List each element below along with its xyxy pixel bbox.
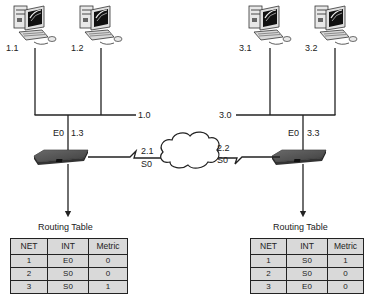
table-header-row: NET INT Metric xyxy=(11,239,128,255)
column-header-int: INT xyxy=(48,239,89,255)
left-lan-segment xyxy=(35,48,137,152)
cell-int: S0 xyxy=(287,268,328,281)
table-row: 1 S0 1 xyxy=(251,255,364,268)
cell-net: 2 xyxy=(11,268,48,281)
pc-icon-3-1 xyxy=(249,6,291,44)
right-router-eth-interface: E0 xyxy=(288,128,299,138)
cell-metric: 0 xyxy=(89,255,128,268)
table-row: 2 S0 0 xyxy=(11,268,128,281)
left-router-eth-address: 1.3 xyxy=(71,128,84,138)
host-label-1-2: 1.2 xyxy=(71,43,84,53)
host-label-3-2: 3.2 xyxy=(305,43,318,53)
left-router-serial-interface: S0 xyxy=(141,159,152,169)
cell-metric: 1 xyxy=(328,255,364,268)
cell-int: E0 xyxy=(287,281,328,294)
left-routing-table-title: Routing Table xyxy=(38,222,93,232)
right-router-eth-address: 3.3 xyxy=(307,128,320,138)
table-row: 3 S0 1 xyxy=(11,281,128,294)
cell-metric: 0 xyxy=(328,281,364,294)
cell-int: S0 xyxy=(287,255,328,268)
table-row: 2 S0 0 xyxy=(251,268,364,281)
column-header-int: INT xyxy=(287,239,328,255)
left-router-eth-interface: E0 xyxy=(53,128,64,138)
cell-net: 2 xyxy=(251,268,287,281)
table-header-row: NET INT Metric xyxy=(251,239,364,255)
column-header-metric: Metric xyxy=(89,239,128,255)
table-row: 1 E0 0 xyxy=(11,255,128,268)
cell-net: 3 xyxy=(251,281,287,294)
right-router-serial-address: 2.2 xyxy=(217,143,230,153)
column-header-net: NET xyxy=(11,239,48,255)
column-header-metric: Metric xyxy=(328,239,364,255)
cell-int: E0 xyxy=(48,255,89,268)
right-routing-table-title: Routing Table xyxy=(273,222,328,232)
pc-icon-3-2 xyxy=(315,6,357,44)
column-header-net: NET xyxy=(251,239,287,255)
network-label-left: 1.0 xyxy=(138,110,151,120)
right-routing-table: NET INT Metric 1 S0 1 2 S0 0 3 E0 0 xyxy=(250,238,364,294)
network-label-right: 3.0 xyxy=(219,110,232,120)
right-router-serial-interface: S0 xyxy=(217,155,228,165)
wan-cloud-icon xyxy=(161,132,219,168)
left-router-serial-address: 2.1 xyxy=(141,146,154,156)
cell-net: 1 xyxy=(251,255,287,268)
host-label-1-1: 1.1 xyxy=(6,43,19,53)
cell-int: S0 xyxy=(48,281,89,294)
pc-icon-1-2 xyxy=(80,6,122,44)
cell-net: 3 xyxy=(11,281,48,294)
right-router-icon xyxy=(272,150,326,165)
host-label-3-1: 3.1 xyxy=(239,43,252,53)
left-routing-table: NET INT Metric 1 E0 0 2 S0 0 3 S0 1 xyxy=(10,238,128,294)
pc-icon-1-1 xyxy=(14,6,56,44)
right-lan-segment xyxy=(236,48,336,152)
cell-metric: 0 xyxy=(89,268,128,281)
left-router-icon xyxy=(34,150,88,165)
table-row: 3 E0 0 xyxy=(251,281,364,294)
cell-net: 1 xyxy=(11,255,48,268)
cell-int: S0 xyxy=(48,268,89,281)
cell-metric: 0 xyxy=(328,268,364,281)
cell-metric: 1 xyxy=(89,281,128,294)
